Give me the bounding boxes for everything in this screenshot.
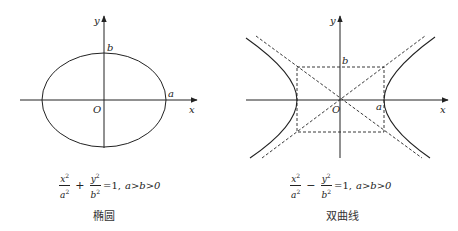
plus-operator: + (75, 179, 84, 192)
hyperbola-a-label: a (376, 101, 382, 112)
ellipse-caption: 椭圆 (93, 207, 115, 223)
hyperbola-panel: y b a x O (246, 15, 448, 158)
ellipse-x-label: x (189, 104, 195, 115)
hyperbola-right-branch (384, 37, 435, 158)
hyperbola-caption: 双曲线 (326, 207, 359, 223)
equation-rhs: =1, (103, 180, 121, 191)
hyperbola-origin-label: O (332, 104, 340, 115)
fraction-x-over-a: x2 a2 (290, 170, 301, 201)
ellipse-a-label: a (168, 88, 174, 99)
hyperbola-y-label: y (329, 15, 336, 26)
equation-condition: a>b>0 (125, 180, 160, 191)
hyperbola-equation: x2 a2 − y2 b2 =1, a>b>0 (288, 170, 391, 201)
minus-operator: − (306, 179, 315, 192)
ellipse-origin-label: O (93, 104, 101, 115)
hyperbola-x-label: x (440, 104, 446, 115)
fraction-y-over-b: y2 b2 (320, 170, 332, 201)
hyperbola-left-branch (246, 38, 297, 158)
equation-rhs: =1, (334, 180, 352, 191)
fraction-x-over-a: x2 a2 (59, 170, 70, 201)
ellipse-b-label: b (107, 42, 113, 53)
ellipse-panel: y b a x O (20, 15, 197, 148)
ellipse-y-label: y (93, 15, 100, 26)
fraction-y-over-b: y2 b2 (89, 170, 101, 201)
equation-condition: a>b>0 (356, 180, 391, 191)
hyperbola-b-label: b (342, 55, 348, 66)
ellipse-equation: x2 a2 + y2 b2 =1, a>b>0 (57, 170, 160, 201)
asymptote-negative (256, 36, 422, 158)
